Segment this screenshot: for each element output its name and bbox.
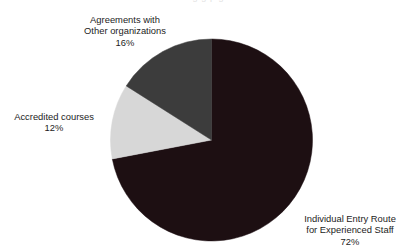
label-line-1: Agreements with xyxy=(59,14,191,25)
label-line-2: Other organizations xyxy=(59,25,191,36)
pie-slices xyxy=(110,39,312,241)
pie-label-individual-entry-route: Individual Entry Route for Experienced S… xyxy=(292,213,408,246)
pie-label-agreements-other-organizations: Agreements with Other organizations 16% xyxy=(59,14,191,48)
pie-label-accredited-courses: Accredited courses 12% xyxy=(2,111,106,134)
pie-chart-page: o g g p g Agreements with Other organiza… xyxy=(0,0,408,246)
label-line-2: for Experienced Staff xyxy=(292,224,408,235)
label-line-1: Individual Entry Route xyxy=(292,213,408,224)
label-value: 72% xyxy=(292,236,408,246)
label-line-1: Accredited courses xyxy=(2,111,106,122)
label-value: 16% xyxy=(59,37,191,48)
label-value: 12% xyxy=(2,122,106,133)
